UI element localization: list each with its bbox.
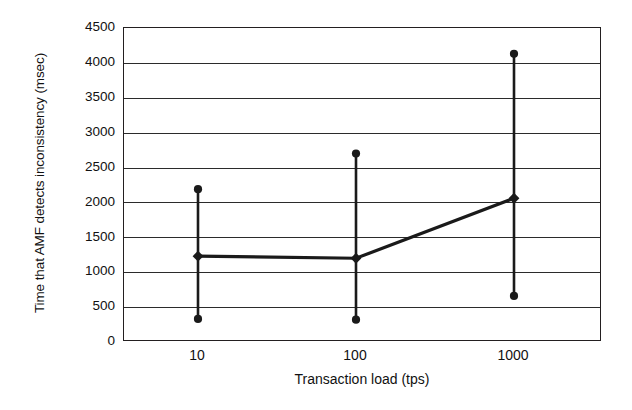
error-bar-cap bbox=[352, 150, 360, 158]
y-axis-tick-labels: 4500 4000 3500 3000 2500 2000 1500 1000 … bbox=[57, 0, 115, 410]
y-tick-label: 1500 bbox=[57, 230, 115, 244]
y-tick-label: 3000 bbox=[57, 125, 115, 139]
y-tick-label: 0 bbox=[57, 334, 115, 348]
y-tick-label: 3500 bbox=[57, 90, 115, 104]
x-tick-label-1000: 1000 bbox=[473, 347, 553, 363]
error-bar-cap bbox=[510, 50, 518, 58]
error-bar-cap bbox=[352, 316, 360, 324]
y-tick-label: 4000 bbox=[57, 55, 115, 69]
data-point-marker bbox=[351, 253, 362, 264]
error-bar-cap bbox=[194, 185, 202, 193]
plot-area bbox=[123, 27, 601, 341]
y-axis-title: Time that AMF detects inconsistency (mse… bbox=[22, 18, 56, 348]
x-axis-title: Transaction load (tps) bbox=[123, 371, 601, 387]
data-point-marker bbox=[509, 193, 520, 204]
data-point-marker bbox=[193, 251, 204, 262]
y-tick-label: 500 bbox=[57, 299, 115, 313]
chart-figure: Time that AMF detects inconsistency (mse… bbox=[0, 0, 632, 410]
y-tick-label: 2000 bbox=[57, 195, 115, 209]
x-tick-label-100: 100 bbox=[315, 347, 395, 363]
y-tick-label: 1000 bbox=[57, 264, 115, 278]
y-tick-label: 4500 bbox=[57, 20, 115, 34]
error-bar-cap bbox=[194, 315, 202, 323]
x-tick-label-10: 10 bbox=[157, 347, 237, 363]
y-tick-label: 2500 bbox=[57, 160, 115, 174]
error-bar-cap bbox=[510, 292, 518, 300]
error-bars bbox=[194, 50, 518, 324]
series-overlay bbox=[124, 28, 602, 342]
